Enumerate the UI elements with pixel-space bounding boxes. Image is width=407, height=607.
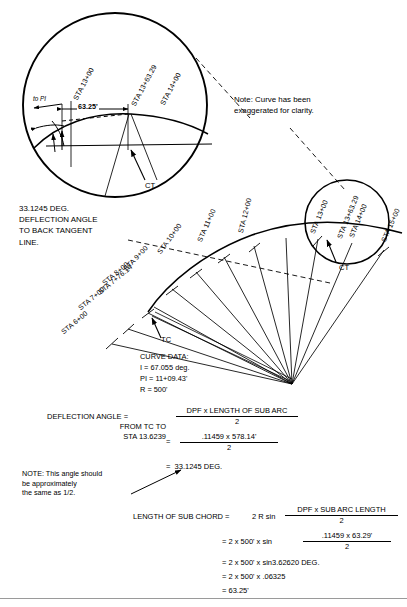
chord-fraction-2-numerator: .11459 x 63.29'	[303, 531, 391, 541]
footer-divider	[0, 598, 407, 599]
chord-fraction-1: DPF x SUB ARC LENGTH 2	[285, 505, 398, 526]
chord-calc-line-5: = 63.25'	[222, 586, 249, 596]
chord-fraction-1-denominator: 2	[285, 516, 398, 526]
drawing-sheet: STA 13+00 STA 13+63.29 STA 14+00 to PI 6…	[0, 0, 407, 607]
chord-calc-line-2-prefix: = 2 x 500' x sin	[222, 537, 272, 547]
chord-calc-expression: 2 R sin	[252, 512, 275, 522]
chord-fraction-1-numerator: DPF x SUB ARC LENGTH	[285, 505, 398, 515]
chord-calc-label: LENGTH OF SUB CHORD =	[133, 512, 229, 522]
chord-calc-line-3: = 2 x 500' x sin3.62620 DEG.	[222, 558, 320, 568]
chord-fraction-2: .11459 x 63.29' 2	[303, 531, 391, 552]
chord-calc-line-4: = 2 x 500' x .06325	[222, 572, 285, 582]
chord-fraction-2-denominator: 2	[303, 542, 391, 552]
